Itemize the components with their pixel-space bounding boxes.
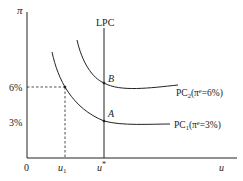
pc2-curve: [77, 40, 178, 89]
origin-label: 0: [24, 162, 29, 173]
pc2-label: PC2(πe=6%): [176, 87, 223, 99]
point-b-label: B: [108, 73, 114, 84]
point-a: [103, 120, 106, 123]
point-b: [103, 82, 106, 85]
x-tick-ustar: u*: [97, 160, 106, 173]
x-tick-u1: u1: [58, 162, 67, 175]
phillips-curve-diagram: π LPC B A 6% 3% 0 u1 u* u PC2(πe=6%) PC1…: [0, 0, 243, 181]
x-axis-label: u: [219, 162, 224, 173]
lpc-label: LPC: [96, 17, 115, 28]
y-axis-label: π: [17, 4, 23, 16]
y-tick-3pct: 3%: [9, 117, 22, 128]
y-tick-6pct: 6%: [9, 82, 22, 93]
point-a-label: A: [107, 108, 115, 119]
pc1-label: PC1(πe=3%): [174, 119, 221, 131]
point-u1-intersection: [64, 86, 67, 89]
